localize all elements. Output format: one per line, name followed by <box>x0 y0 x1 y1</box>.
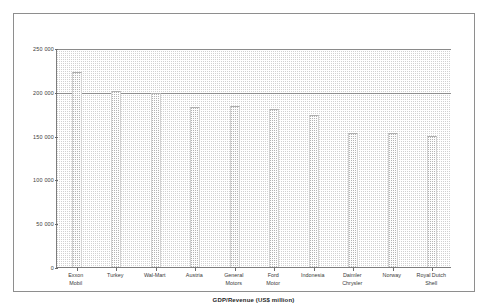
bar <box>230 106 240 267</box>
x-axis-category-labels: ExxonMobilTurkeyWal-MartAustriaGeneralMo… <box>56 272 451 296</box>
x-axis-title: GDP/Revenue (US$ million) <box>56 297 451 303</box>
x-axis-category-label: Royal DutchShell <box>417 272 446 287</box>
x-axis-category-label: Indonesia <box>301 272 324 280</box>
x-axis-tick-mark <box>195 268 196 271</box>
y-axis-tick-mark <box>55 93 58 94</box>
bar <box>309 115 319 267</box>
x-axis-category-label: GeneralMotors <box>224 272 243 287</box>
x-axis-tick-mark <box>314 268 315 271</box>
x-axis-category-label-line: Motor <box>266 280 280 288</box>
bar <box>190 107 200 267</box>
x-axis-category-label: Austria <box>186 272 203 280</box>
y-axis-tick-label: 200 000 <box>33 90 54 96</box>
x-axis-category-label: Norway <box>383 272 401 280</box>
x-axis-tick-mark <box>77 268 78 271</box>
y-axis-tick-mark <box>55 137 58 138</box>
x-axis-category-label-line: Norway <box>383 272 401 280</box>
y-axis-tick-mark <box>55 49 58 50</box>
x-axis-category-label-line: Royal Dutch <box>417 272 446 280</box>
x-axis-category-label-line: General <box>224 272 243 280</box>
chart-container: 250 000200 000150 000100 00050 0000 Exxo… <box>14 14 476 293</box>
x-axis-category-label-line: Wal-Mart <box>144 272 166 280</box>
x-axis-category-label: ExxonMobil <box>68 272 83 287</box>
x-axis-category-label: Wal-Mart <box>144 272 166 280</box>
y-axis-tick-mark <box>55 224 58 225</box>
x-axis-tick-mark <box>156 268 157 271</box>
bars-layer <box>57 49 451 267</box>
x-axis-category-label-line: Chrysler <box>342 280 362 288</box>
y-axis-tick-label: 250 000 <box>33 46 54 52</box>
bar <box>388 133 398 267</box>
x-axis-tick-mark <box>353 268 354 271</box>
y-axis-tick-label: 50 000 <box>36 221 54 227</box>
page-title <box>0 1 489 10</box>
x-axis-category-label-line: Turkey <box>107 272 123 280</box>
y-axis-tick-label: 150 000 <box>33 134 54 140</box>
y-axis-tick-labels: 250 000200 000150 000100 00050 0000 <box>14 14 54 293</box>
y-axis-tick-mark <box>55 268 58 269</box>
x-axis-tick-mark <box>116 268 117 271</box>
x-axis-category-label-line: Exxon <box>68 272 83 280</box>
x-axis-category-label-line: Ford <box>266 272 280 280</box>
y-axis-tick-mark <box>55 180 58 181</box>
x-axis-category-label-line: Austria <box>186 272 203 280</box>
bar <box>269 109 279 267</box>
x-axis-tick-mark <box>274 268 275 271</box>
figure-frame: 250 000200 000150 000100 00050 0000 Exxo… <box>13 13 475 292</box>
x-axis-category-label-line: Shell <box>417 280 446 288</box>
x-axis-category-label-line: Daimler <box>342 272 362 280</box>
bar <box>151 93 161 267</box>
bar <box>348 133 358 267</box>
x-axis-tick-mark <box>393 268 394 271</box>
x-axis-category-label-line: Mobil <box>68 280 83 288</box>
x-axis-category-label: DaimlerChrysler <box>342 272 362 287</box>
x-axis-category-label-line: Motors <box>224 280 243 288</box>
bar <box>72 72 82 267</box>
x-axis-category-label: FordMotor <box>266 272 280 287</box>
x-axis-tick-mark <box>432 268 433 271</box>
y-axis-tick-label: 0 <box>51 265 54 271</box>
bar <box>427 136 437 267</box>
x-axis-tick-mark <box>235 268 236 271</box>
x-axis-category-label-line: Indonesia <box>301 272 324 280</box>
plot-area <box>56 49 451 268</box>
x-axis-category-label: Turkey <box>107 272 123 280</box>
bar <box>111 91 121 267</box>
y-axis-tick-label: 100 000 <box>33 177 54 183</box>
